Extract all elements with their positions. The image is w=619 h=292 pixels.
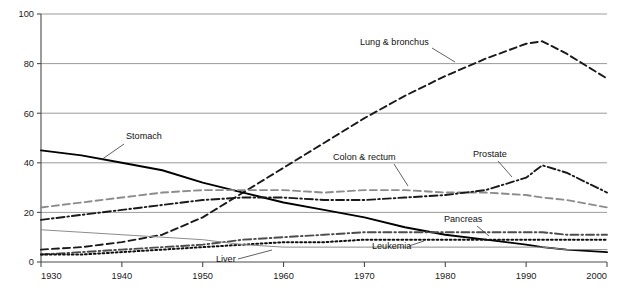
cancer-mortality-chart: Rate per 100,000 male population 0204060… (0, 0, 619, 292)
y-tick-label-100: 100 (18, 9, 34, 19)
series-label-pancreas: Pancreas (444, 214, 483, 224)
series-label-colon-rectum: Colon & rectum (333, 152, 396, 162)
y-tick-label-40: 40 (24, 158, 34, 168)
x-tick-label-1990: 1990 (516, 271, 537, 281)
series-label-leukemia: Leukemia (372, 241, 412, 251)
x-tick-label-1950: 1950 (192, 271, 213, 281)
leader-line-stomach (101, 144, 124, 160)
leader-line-lung-bronchus (432, 48, 455, 62)
series-line-prostate (41, 165, 607, 220)
series-line-colon-rectum (41, 190, 607, 207)
leader-line-prostate (498, 161, 512, 177)
leader-line-colon-rectum (394, 164, 408, 186)
y-tick-label-60: 60 (24, 109, 34, 119)
series-label-lung-bronchus: Lung & bronchus (360, 37, 429, 47)
series-line-lung-bronchus (41, 41, 607, 249)
x-tick-label-1970: 1970 (354, 271, 375, 281)
y-tick-label-0: 0 (29, 257, 34, 267)
x-tick-label-1930: 1930 (41, 271, 62, 281)
x-tick-label-2000: 2000 (586, 271, 607, 281)
y-tick-label-20: 20 (24, 208, 34, 218)
x-tick-label-1940: 1940 (112, 271, 133, 281)
leader-line-pancreas (477, 226, 489, 236)
series-label-stomach: Stomach (126, 131, 162, 141)
leader-line-liver (238, 250, 272, 259)
series-label-prostate: Prostate (473, 149, 507, 159)
x-tick-label-1960: 1960 (273, 271, 294, 281)
y-tick-label-80: 80 (24, 59, 34, 69)
series-line-stomach (41, 150, 607, 252)
chart-plot-area: 0204060801001930194019501960197019801990… (0, 0, 619, 292)
series-label-liver: Liver (216, 254, 236, 264)
x-tick-label-1980: 1980 (435, 271, 456, 281)
